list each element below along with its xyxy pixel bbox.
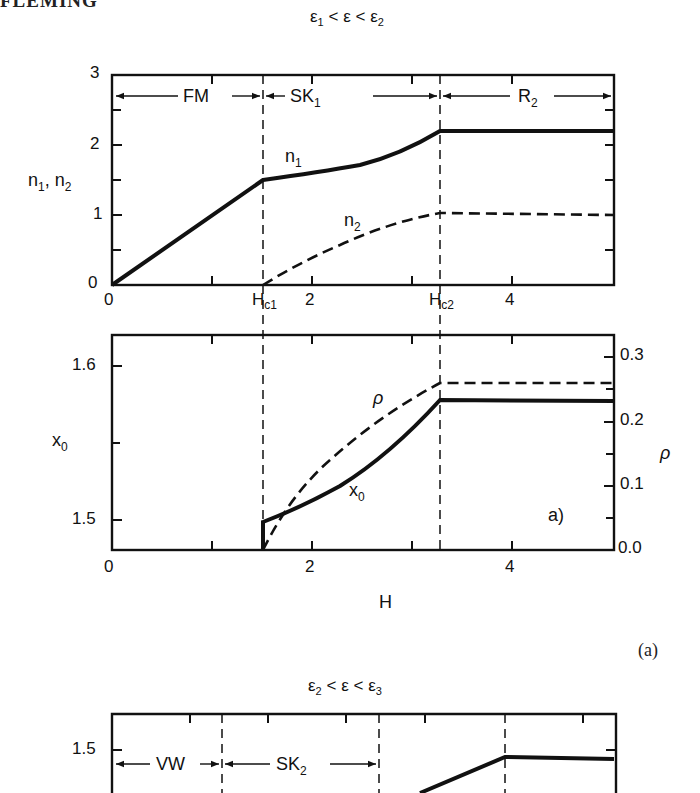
region-vw: VW — [156, 754, 185, 775]
curve-label-n1: n1 — [285, 146, 302, 170]
hc2-base: H — [429, 290, 441, 309]
subscript: 1 — [38, 180, 45, 194]
series-n1 — [112, 131, 614, 285]
separator: , — [45, 170, 55, 190]
subscript: 2 — [65, 180, 72, 194]
hc1-base: H — [252, 290, 264, 309]
xlabel-h: H — [379, 592, 392, 613]
region-fm: FM — [183, 86, 209, 107]
panel-b-condition: ε2 < ε < ε3 — [308, 676, 382, 697]
subfigure-tag: (a) — [638, 640, 658, 661]
epsilon-symbol: ε — [308, 676, 316, 695]
subscript: 2 — [354, 220, 361, 234]
ytick-right-0-0: 0.0 — [618, 538, 642, 558]
chart-canvas — [0, 0, 700, 793]
top-ylabel: n1, n2 — [28, 170, 71, 194]
region-label: R — [518, 86, 531, 106]
region-sk2: SK2 — [276, 754, 307, 778]
subscript: 2 — [300, 764, 307, 778]
ytick-1-5: 1.5 — [72, 739, 96, 759]
ytick-1-6: 1.6 — [72, 355, 96, 375]
xtick-hc2: Hc2 — [429, 290, 454, 312]
less-than: < — [353, 676, 363, 695]
epsilon-symbol: ε — [368, 676, 376, 695]
inset-tag: a) — [548, 505, 564, 526]
less-than: < — [326, 676, 336, 695]
ytick-right-0-3: 0.3 — [620, 345, 644, 365]
ylabel-rho: ρ — [660, 443, 670, 464]
epsilon-symbol: ε — [341, 676, 349, 695]
curve-label-n2: n2 — [344, 210, 361, 234]
ytick-right-0-2: 0.2 — [620, 410, 644, 430]
label-base: n — [285, 146, 295, 166]
xtick-hc1: Hc1 — [252, 290, 277, 312]
subscript: 0 — [61, 440, 68, 454]
label-base: x — [52, 430, 61, 450]
subscript: 1 — [295, 156, 302, 170]
ylabel-x0: x0 — [52, 430, 68, 454]
subscript: 3 — [376, 685, 382, 697]
bottom-plot-frame — [112, 285, 614, 550]
ytick-right-0-1: 0.1 — [620, 474, 644, 494]
ylabel-n1: n — [28, 170, 38, 190]
curve-label-x0: x0 — [349, 480, 365, 504]
region-r2: R2 — [518, 86, 538, 110]
xtick-0: 0 — [104, 290, 113, 310]
region-label: SK — [276, 754, 300, 774]
xtick-4: 4 — [505, 290, 514, 310]
subscript: c2 — [441, 298, 454, 312]
ytick-1-5: 1.5 — [72, 509, 96, 529]
subscript: 1 — [314, 96, 321, 110]
xtick-2: 2 — [305, 290, 314, 310]
subscript: c1 — [264, 298, 277, 312]
curve-label-rho: ρ — [373, 388, 383, 409]
subscript: 0 — [358, 490, 365, 504]
ylabel-n2: n — [55, 170, 65, 190]
subscript: 2 — [316, 685, 322, 697]
ytick-1: 1 — [93, 204, 102, 224]
series-b-x0 — [420, 757, 614, 793]
xtick-4: 4 — [505, 557, 514, 577]
ytick-0: 0 — [88, 273, 97, 293]
panel-b-frame — [112, 714, 616, 793]
xtick-0: 0 — [104, 557, 113, 577]
ytick-2: 2 — [90, 134, 99, 154]
region-label: SK — [290, 86, 314, 106]
series-n2 — [263, 213, 614, 285]
subscript: 2 — [531, 96, 538, 110]
xtick-2: 2 — [305, 557, 314, 577]
label-base: n — [344, 210, 354, 230]
region-sk1: SK1 — [290, 86, 321, 110]
label-base: x — [349, 480, 358, 500]
ytick-3: 3 — [90, 63, 99, 83]
